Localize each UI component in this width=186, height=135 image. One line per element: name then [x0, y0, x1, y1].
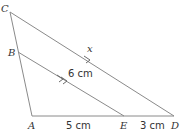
segment-be: [18, 52, 124, 116]
triangle-diagram: C B A E D x 6 cm 5 cm 3 cm: [0, 0, 186, 135]
x-label: x: [87, 43, 93, 54]
point-label-e: E: [119, 120, 128, 131]
parallel-arrow-icon-be: [57, 75, 67, 84]
length-label-ae: 5 cm: [66, 120, 91, 131]
point-label-a: A: [27, 120, 35, 131]
point-label-d: D: [170, 120, 179, 131]
point-label-c: C: [1, 3, 9, 14]
point-label-b: B: [7, 47, 15, 58]
length-label-ed: 3 cm: [140, 120, 165, 131]
length-label-be: 6 cm: [68, 68, 93, 79]
segment-cd: [10, 12, 174, 116]
segment-ca: [10, 12, 32, 116]
